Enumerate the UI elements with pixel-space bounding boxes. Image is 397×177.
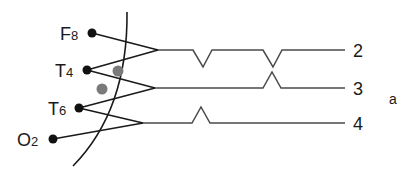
channel-label-2: 2 <box>353 41 363 61</box>
electrode-o2-dot <box>49 135 58 144</box>
channel-label-3: 3 <box>353 79 363 99</box>
electrode-label-f8: F8 <box>60 24 78 44</box>
electrode-label-t6: T6 <box>48 99 66 119</box>
electrode-label-o2: O2 <box>17 130 38 150</box>
channel-3-trace <box>155 72 345 88</box>
channel-4-trace <box>143 107 345 123</box>
channel-label-4: 4 <box>353 114 363 134</box>
electrode-t6-dot <box>75 104 84 113</box>
electrode-label-t4: T4 <box>55 61 73 81</box>
electrode-f8-dot <box>88 29 97 38</box>
panel-label: a <box>389 91 397 107</box>
focus-dot-2 <box>97 84 108 95</box>
focus-dot-1 <box>113 66 124 77</box>
channel-2-trace <box>158 50 345 67</box>
electrode-t4-dot <box>83 66 92 75</box>
montage-diagram: F8 T4 T6 O2 2 3 4 a <box>0 0 397 177</box>
